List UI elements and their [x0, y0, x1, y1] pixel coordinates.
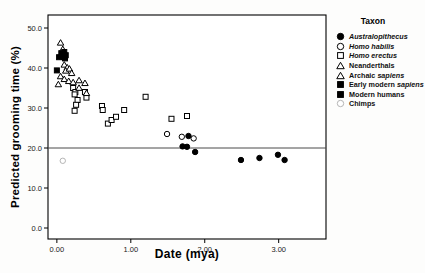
- legend-label: Chimps: [349, 99, 375, 108]
- circle-open-icon: [336, 42, 345, 51]
- legend-item-homo-erectus: Homo erectus: [336, 51, 424, 61]
- data-point: [122, 108, 127, 113]
- y-tick-label: 30.0: [27, 104, 42, 113]
- data-point: [179, 134, 184, 139]
- data-point: [100, 108, 105, 113]
- data-point: [143, 94, 148, 99]
- data-point: [257, 155, 262, 160]
- data-point: [186, 133, 191, 138]
- legend-label: Homo habilis: [349, 42, 394, 51]
- data-point: [72, 92, 77, 97]
- data-point: [238, 157, 243, 162]
- y-axis-title: Predicted grooming time (%): [9, 15, 21, 239]
- triangle-open-icon: [336, 71, 345, 80]
- legend-item-chimps: Chimps: [336, 99, 424, 109]
- data-point: [169, 116, 174, 121]
- series-chimps: [60, 158, 65, 163]
- data-point: [54, 68, 59, 73]
- data-point: [191, 136, 196, 141]
- data-point: [75, 98, 80, 103]
- plot-frame: [48, 15, 326, 239]
- square-filled-icon: [336, 90, 345, 99]
- square-open-icon: [336, 51, 345, 60]
- data-point: [74, 102, 79, 107]
- legend-item-neanderthals: Neanderthals: [336, 61, 424, 71]
- data-point: [114, 114, 119, 119]
- y-tick-label: 40.0: [27, 64, 42, 73]
- legend-title: Taxon: [336, 16, 424, 26]
- y-tick-label: 10.0: [27, 184, 42, 193]
- circle-filled-icon: [336, 32, 345, 41]
- figure: 0.001.002.003.000.010.020.030.040.050.0 …: [0, 0, 425, 273]
- triangle-open-icon: [336, 61, 345, 70]
- y-tick-label: 0.0: [32, 224, 42, 233]
- y-tick-label: 50.0: [27, 24, 42, 33]
- x-axis-title: Date (mya): [48, 247, 326, 261]
- circle-open-icon: [336, 99, 345, 108]
- legend-label: Archaic sapiens: [349, 71, 404, 80]
- data-point: [185, 114, 190, 119]
- y-tick-label: 20.0: [27, 144, 42, 153]
- legend-items: AustralopithecusHomo habilisHomo erectus…: [336, 32, 424, 109]
- legend-label: Early modern sapiens: [349, 80, 424, 89]
- data-point: [57, 55, 62, 60]
- data-point: [282, 157, 287, 162]
- data-point: [164, 131, 169, 136]
- legend-label: Neanderthals: [349, 61, 395, 70]
- legend-label: Australopithecus: [349, 32, 408, 41]
- square-filled-icon: [336, 80, 345, 89]
- data-point: [192, 149, 197, 154]
- data-point: [72, 108, 77, 113]
- legend-item-modern-humans: Modern humans: [336, 90, 424, 100]
- data-point: [275, 152, 280, 157]
- legend: Taxon AustralopithecusHomo habilisHomo e…: [336, 16, 424, 109]
- legend-label: Modern humans: [349, 90, 405, 99]
- legend-item-homo-habilis: Homo habilis: [336, 42, 424, 52]
- data-point: [184, 144, 189, 149]
- scatter-plot: 0.001.002.003.000.010.020.030.040.050.0: [0, 0, 345, 273]
- legend-item-early-modern-sapiens: Early modern sapiens: [336, 80, 424, 90]
- data-point: [60, 158, 65, 163]
- legend-label: Homo erectus: [349, 51, 397, 60]
- legend-item-australopithecus: Australopithecus: [336, 32, 424, 42]
- legend-item-archaic-sapiens: Archaic sapiens: [336, 70, 424, 80]
